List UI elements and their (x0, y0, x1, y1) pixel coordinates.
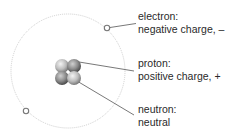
electron-icon (104, 25, 109, 30)
proton-label-name: proton: (138, 57, 221, 70)
electron-label-name: electron: (138, 10, 224, 23)
neutron-label: neutron: neutral (138, 103, 177, 129)
proton-label-description: positive charge, + (138, 70, 221, 83)
neutron-leader-line (77, 81, 134, 115)
proton-icon (55, 71, 69, 85)
electron-leader-line (110, 24, 136, 28)
neutron-icon (67, 71, 81, 85)
proton-leader-line (79, 62, 134, 71)
neutron-label-name: neutron: (138, 103, 177, 116)
electron-label-description: negative charge, – (138, 23, 224, 36)
neutron-label-description: neutral (138, 116, 177, 129)
electron-label: electron: negative charge, – (138, 10, 224, 36)
proton-icon (67, 59, 81, 73)
electron-icon (23, 108, 28, 113)
neutron-icon (55, 59, 69, 73)
nucleus (55, 59, 81, 85)
proton-label: proton: positive charge, + (138, 57, 221, 83)
